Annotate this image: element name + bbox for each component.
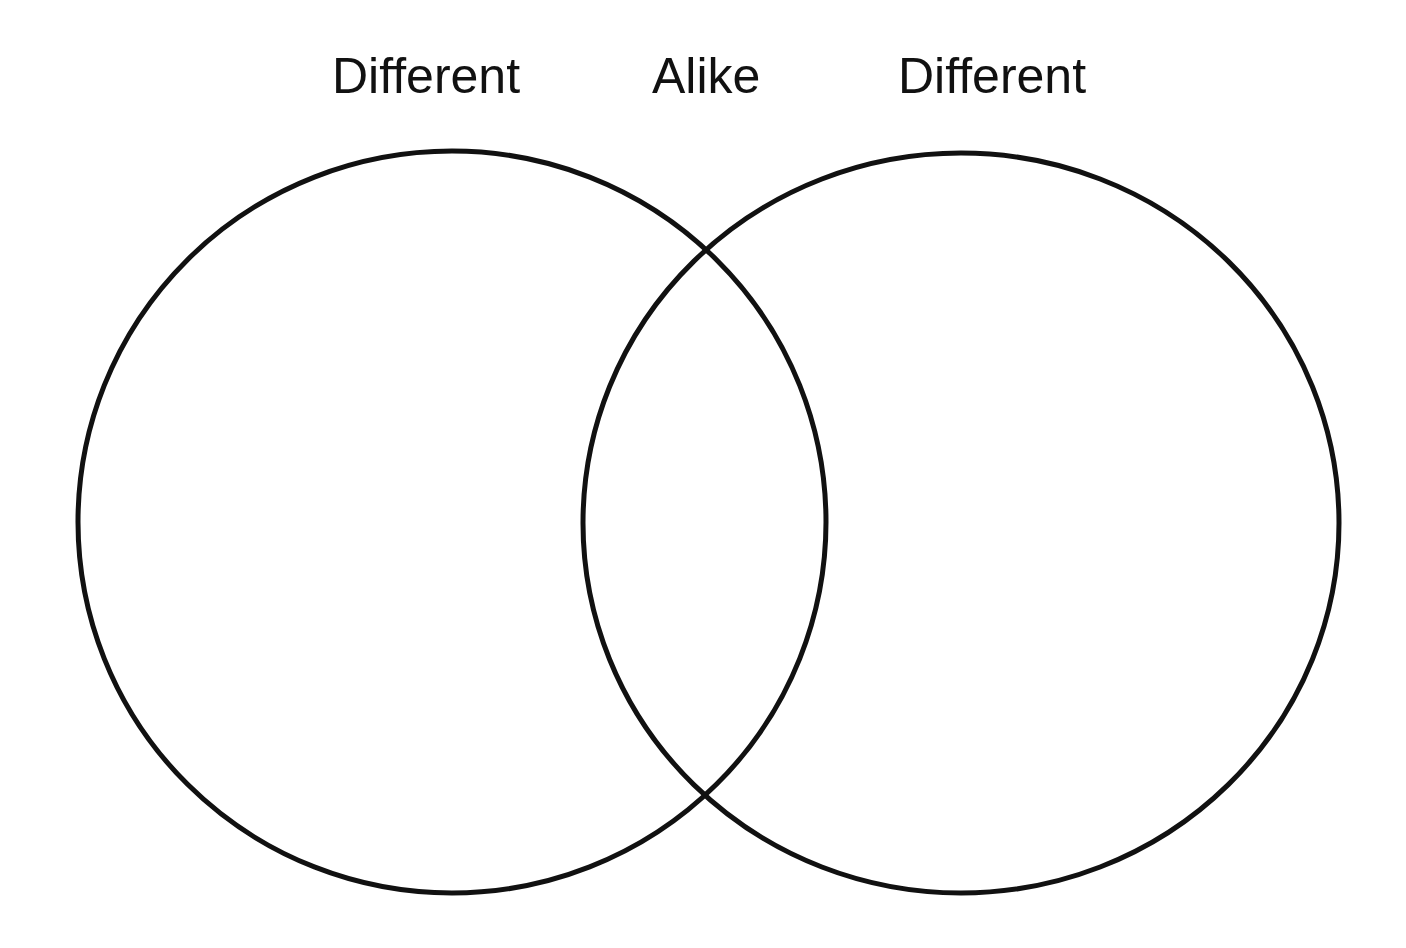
left-circle (78, 151, 826, 893)
venn-diagram (0, 0, 1406, 948)
right-circle (583, 153, 1339, 893)
